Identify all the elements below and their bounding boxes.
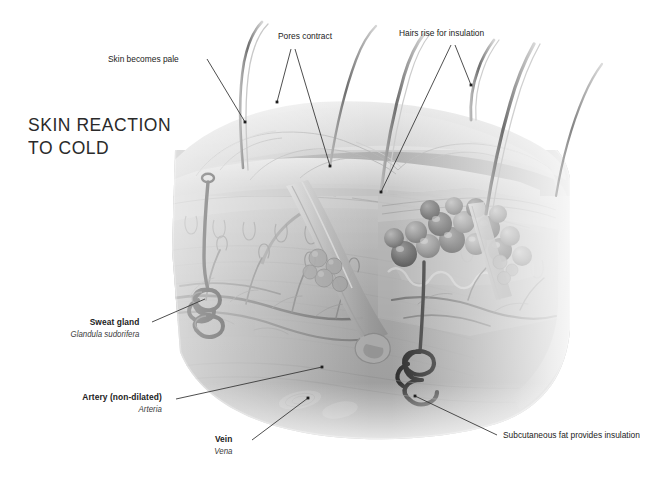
callout-pores-contract: Pores contract xyxy=(278,31,332,42)
callout-artery: Artery (non-dilated) Arteria xyxy=(0,392,162,415)
callout-label-text: Vein xyxy=(215,434,233,444)
callout-latin-text: Glandula sudorifera xyxy=(0,329,140,340)
figure-canvas: SKIN REACTION TO COLD Skin becomes pale … xyxy=(0,0,667,482)
callout-skin-becomes-pale: Skin becomes pale xyxy=(108,54,179,65)
title-line-2: TO COLD xyxy=(28,137,109,158)
callout-latin-text: Arteria xyxy=(0,404,162,415)
callout-label-text: Artery (non-dilated) xyxy=(82,392,162,402)
page-title: SKIN REACTION TO COLD xyxy=(28,113,221,159)
callout-label-text: Subcutaneous fat provides insulation xyxy=(503,430,640,440)
callout-label-text: Skin becomes pale xyxy=(108,54,179,64)
callout-label-text: Pores contract xyxy=(278,31,332,41)
callout-subcutaneous-fat: Subcutaneous fat provides insulation xyxy=(503,430,640,441)
callout-vein: Vein Vena xyxy=(0,434,233,457)
callout-latin-text: Vena xyxy=(0,446,233,457)
title-line-1: SKIN REACTION xyxy=(28,114,171,135)
callout-hairs-rise: Hairs rise for insulation xyxy=(399,28,484,39)
callout-label-text: Sweat gland xyxy=(90,317,140,327)
callout-sweat-gland: Sweat gland Glandula sudorifera xyxy=(0,317,140,340)
callout-label-text: Hairs rise for insulation xyxy=(399,28,484,38)
